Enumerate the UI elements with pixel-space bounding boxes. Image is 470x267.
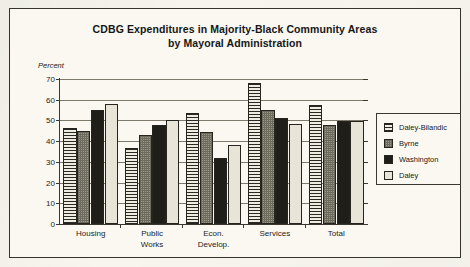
bar[interactable]	[323, 125, 336, 224]
bar-group	[306, 79, 367, 224]
x-axis-label: Housing	[60, 229, 121, 240]
x-axis-line	[59, 224, 368, 225]
chart-frame: CDBG Expenditures in Majority-Black Comm…	[9, 8, 461, 258]
bar-group	[121, 79, 182, 224]
y-axis-tick-labels: 010203040506070	[34, 79, 55, 224]
y-tick-label: 40	[35, 137, 55, 146]
legend-swatch-icon	[384, 155, 393, 164]
bar[interactable]	[77, 131, 90, 224]
x-tick	[243, 224, 244, 228]
x-tick	[120, 224, 121, 228]
x-axis-label: Econ.Develop.	[183, 229, 244, 250]
bar[interactable]	[63, 128, 76, 224]
y-tick-label: 70	[35, 75, 55, 84]
chart-page: CDBG Expenditures in Majority-Black Comm…	[0, 0, 470, 267]
bar[interactable]	[289, 124, 302, 224]
y-tick-label: 10	[35, 199, 55, 208]
bar[interactable]	[309, 105, 322, 224]
bar[interactable]	[228, 145, 241, 224]
chart-title-line-2: by Mayoral Administration	[10, 37, 460, 51]
x-axis-label: Total	[306, 229, 367, 240]
plot-area	[60, 79, 367, 224]
bar-group	[244, 79, 305, 224]
chart-legend: Daley-BilandicByrneWashingtonDaley	[376, 113, 461, 185]
bar[interactable]	[350, 121, 363, 224]
y-tick-label: 20	[35, 178, 55, 187]
x-axis-label: Services	[244, 229, 305, 240]
bar[interactable]	[152, 125, 165, 224]
y-tick-label: 0	[35, 220, 55, 229]
bar[interactable]	[186, 113, 199, 224]
x-tick	[305, 224, 306, 228]
y-tick-label: 50	[35, 116, 55, 125]
legend-label: Daley-Bilandic	[399, 123, 447, 132]
legend-item[interactable]: Washington	[384, 153, 438, 165]
bar[interactable]	[200, 132, 213, 224]
legend-item[interactable]: Daley	[384, 169, 418, 181]
legend-label: Washington	[399, 155, 438, 164]
legend-item[interactable]: Byrne	[384, 137, 419, 149]
bar-group	[183, 79, 244, 224]
bar[interactable]	[125, 148, 138, 224]
y-tick-label: 60	[35, 95, 55, 104]
bar[interactable]	[105, 104, 118, 224]
legend-item[interactable]: Daley-Bilandic	[384, 121, 447, 133]
bar[interactable]	[139, 135, 152, 224]
bar[interactable]	[337, 121, 350, 224]
bar[interactable]	[275, 118, 288, 224]
x-axis-label: PublicWorks	[121, 229, 182, 250]
legend-label: Byrne	[399, 139, 419, 148]
legend-swatch-icon	[384, 171, 393, 180]
bar[interactable]	[166, 120, 179, 224]
y-tick-label: 30	[35, 157, 55, 166]
bar[interactable]	[91, 110, 104, 224]
bar-group	[60, 79, 121, 224]
chart-title-line-1: CDBG Expenditures in Majority-Black Comm…	[10, 23, 460, 37]
y-axis-label: Percent	[38, 61, 64, 70]
legend-label: Daley	[399, 171, 418, 180]
y-tick-right	[363, 224, 368, 225]
bar[interactable]	[248, 83, 261, 224]
x-axis-category-labels: HousingPublicWorksEcon.Develop.ServicesT…	[60, 229, 367, 257]
legend-swatch-icon	[384, 123, 393, 132]
chart-title: CDBG Expenditures in Majority-Black Comm…	[10, 23, 460, 50]
y-tick-left	[56, 224, 60, 225]
bar[interactable]	[261, 110, 274, 224]
x-tick	[182, 224, 183, 228]
bar[interactable]	[214, 158, 227, 224]
legend-swatch-icon	[384, 139, 393, 148]
